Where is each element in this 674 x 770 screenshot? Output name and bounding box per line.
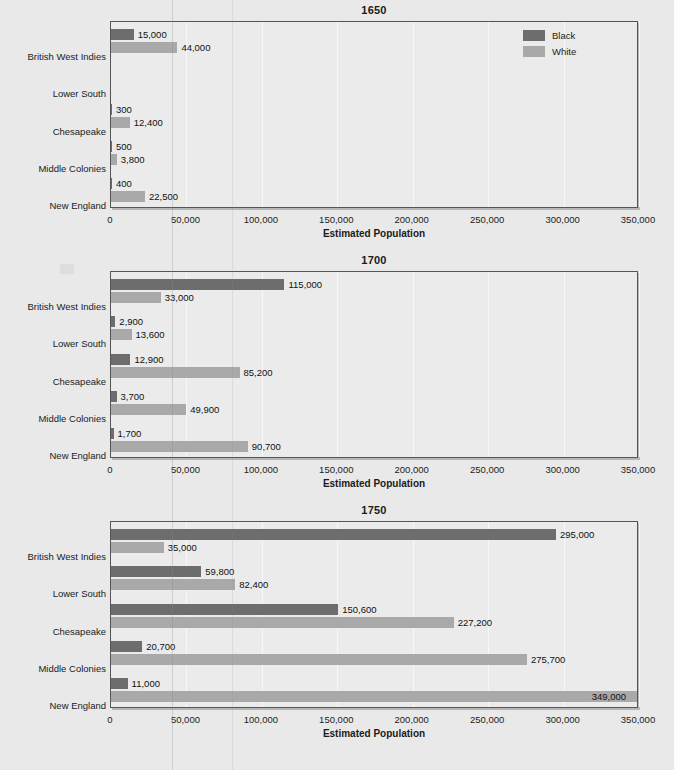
chart-panel-1700: 1700British West IndiesLower SouthChesap… [0, 254, 674, 503]
gridline [488, 522, 489, 707]
bar-white-british-west-indies [111, 292, 161, 303]
gridline [639, 522, 640, 707]
gridline [488, 272, 489, 457]
x-axis-title: Estimated Population [110, 228, 638, 239]
bar-value-label: 49,900 [190, 405, 219, 415]
bar-value-label: 15,000 [138, 30, 167, 40]
bar-value-label: 85,200 [244, 368, 273, 378]
bar-value-label: 3,700 [121, 392, 145, 402]
y-axis-label: Middle Colonies [38, 163, 106, 174]
bar-value-label: 300 [116, 105, 132, 115]
y-axis-label: Chesapeake [53, 376, 106, 387]
x-axis-tick: 350,000 [621, 214, 655, 225]
bar-black-british-west-indies [111, 529, 556, 540]
gridline [262, 22, 263, 207]
bar-value-label: 115,000 [288, 280, 322, 290]
y-axis-label: New England [49, 700, 106, 711]
bar-value-label: 82,400 [239, 580, 268, 590]
bar-white-british-west-indies [111, 42, 177, 53]
y-axis-label: British West Indies [28, 51, 107, 62]
bar-black-new-england [111, 428, 114, 439]
gridline [413, 272, 414, 457]
bar-value-label: 35,000 [168, 543, 197, 553]
gridline [639, 22, 640, 207]
y-axis-labels: British West IndiesLower SouthChesapeake… [0, 21, 106, 208]
x-axis-tick: 300,000 [545, 464, 579, 475]
bar-value-label: 295,000 [560, 530, 594, 540]
y-axis-label: Middle Colonies [38, 663, 106, 674]
legend-label: Black [552, 30, 575, 41]
x-axis: 050,000100,000150,000200,000250,000300,0… [110, 464, 638, 478]
bar-value-label: 90,700 [252, 442, 281, 452]
bar-black-new-england [111, 178, 112, 189]
bar-white-new-england [111, 191, 145, 202]
x-axis-title: Estimated Population [110, 728, 638, 739]
bar-black-lower-south [111, 566, 201, 577]
x-axis-tick: 350,000 [621, 464, 655, 475]
gridline [337, 272, 338, 457]
bar-white-chesapeake [111, 617, 454, 628]
y-axis-labels: British West IndiesLower SouthChesapeake… [0, 521, 106, 708]
gridline [564, 272, 565, 457]
x-axis-tick: 0 [107, 214, 112, 225]
x-axis-title: Estimated Population [110, 478, 638, 489]
x-axis-tick: 150,000 [319, 214, 353, 225]
bar-value-label: 22,500 [149, 192, 178, 202]
bar-white-chesapeake [111, 117, 130, 128]
x-axis-tick: 0 [107, 464, 112, 475]
bar-black-middle-colonies [111, 641, 142, 652]
bar-value-label: 227,200 [458, 618, 492, 628]
bar-white-lower-south [111, 329, 132, 340]
bar-value-label: 20,700 [146, 642, 175, 652]
bar-value-label: 2,900 [119, 317, 143, 327]
plot-area: 115,00033,0002,90013,60012,90085,2003,70… [110, 271, 638, 458]
legend-item-white[interactable]: White [523, 46, 576, 57]
chart-title: 1650 [110, 4, 638, 16]
gridline [262, 522, 263, 707]
bar-white-british-west-indies [111, 542, 164, 553]
gridline [413, 522, 414, 707]
bar-black-middle-colonies [111, 391, 117, 402]
x-axis: 050,000100,000150,000200,000250,000300,0… [110, 214, 638, 228]
x-axis-tick: 100,000 [244, 464, 278, 475]
y-axis-label: Lower South [53, 338, 106, 349]
gridline [488, 22, 489, 207]
x-axis-tick: 350,000 [621, 714, 655, 725]
gridline [337, 522, 338, 707]
bar-white-middle-colonies [111, 404, 186, 415]
x-axis-tick: 300,000 [545, 214, 579, 225]
x-axis-tick: 50,000 [171, 214, 200, 225]
x-axis-tick: 100,000 [244, 214, 278, 225]
x-axis-tick: 200,000 [395, 714, 429, 725]
x-axis-tick: 50,000 [171, 714, 200, 725]
bar-black-chesapeake [111, 104, 112, 115]
bar-black-british-west-indies [111, 29, 134, 40]
bar-value-label: 275,700 [531, 655, 565, 665]
bar-value-label: 1,700 [118, 429, 142, 439]
y-axis-label: Chesapeake [53, 626, 106, 637]
bar-value-label: 13,600 [136, 330, 165, 340]
x-axis-tick: 250,000 [470, 464, 504, 475]
legend-item-black[interactable]: Black [523, 30, 576, 41]
bar-white-lower-south [111, 579, 235, 590]
x-axis-tick: 200,000 [395, 464, 429, 475]
x-axis-tick: 150,000 [319, 714, 353, 725]
x-axis-tick: 300,000 [545, 714, 579, 725]
x-axis-tick: 50,000 [171, 464, 200, 475]
bar-value-label: 33,000 [165, 293, 194, 303]
chart-panel-1750: 1750British West IndiesLower SouthChesap… [0, 504, 674, 753]
x-axis-tick: 200,000 [395, 214, 429, 225]
bar-value-label: 500 [116, 142, 132, 152]
y-axis-label: British West Indies [28, 301, 107, 312]
x-axis-tick: 250,000 [470, 214, 504, 225]
bar-white-middle-colonies [111, 154, 117, 165]
y-axis-label: New England [49, 450, 106, 461]
gridline [413, 22, 414, 207]
bar-value-label: 12,400 [134, 118, 163, 128]
chart-title: 1700 [110, 254, 638, 266]
y-axis-label: New England [49, 200, 106, 211]
bar-white-middle-colonies [111, 654, 527, 665]
chart-title: 1750 [110, 504, 638, 516]
x-axis-tick: 0 [107, 714, 112, 725]
y-axis-label: Middle Colonies [38, 413, 106, 424]
